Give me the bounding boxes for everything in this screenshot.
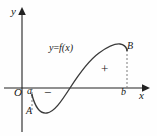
x-axis <box>4 84 150 92</box>
curve-equation-rhs: f(x) <box>59 42 73 53</box>
origin-label: O <box>14 87 22 98</box>
x-axis-label: x <box>139 90 144 101</box>
point-label-B: B <box>127 41 133 51</box>
function-graph-figure: y x O a b A B y=f(x) − + <box>0 0 157 136</box>
curve-equation-label: y=f(x) <box>49 43 73 53</box>
negative-region-sign: − <box>44 86 51 99</box>
y-axis-label: y <box>11 6 16 17</box>
y-axis <box>18 7 26 132</box>
graph-canvas <box>0 0 157 136</box>
tick-label-b: b <box>121 87 126 97</box>
positive-region-sign: + <box>101 62 108 75</box>
y-axis-arrowhead <box>18 7 26 15</box>
tick-label-a: a <box>27 86 32 96</box>
point-label-A: A <box>26 106 32 116</box>
function-curve <box>32 44 127 113</box>
